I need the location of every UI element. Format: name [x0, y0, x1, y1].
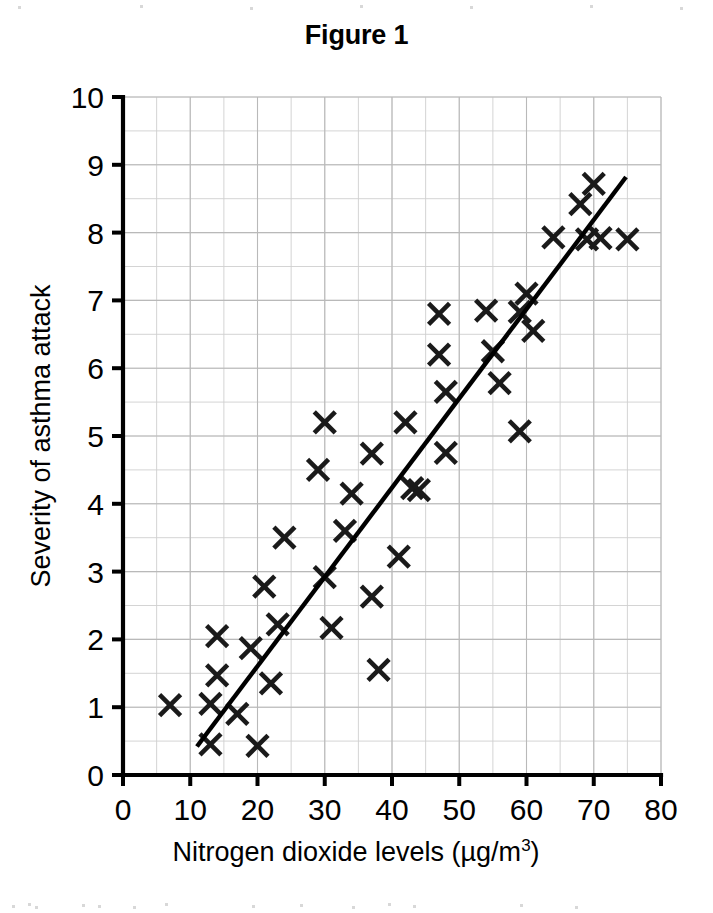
data-point — [429, 303, 450, 324]
x-axis-tick-label: 40 — [375, 793, 408, 826]
y-axis-tick-label: 1 — [87, 691, 104, 724]
data-point — [489, 373, 510, 394]
scan-speck — [35, 906, 38, 909]
x-axis-tick-label: 20 — [241, 793, 274, 826]
scan-speck — [470, 6, 473, 9]
data-point — [160, 695, 181, 716]
scan-speck — [12, 905, 15, 908]
data-point — [361, 443, 382, 464]
y-axis-tick-label: 2 — [87, 623, 104, 656]
y-axis-tick-label: 0 — [87, 759, 104, 792]
scatter-plot: 01234567891001020304050607080 Nitrogen d… — [0, 0, 713, 913]
scan-speck — [252, 905, 255, 908]
scan-speck — [82, 904, 85, 907]
scan-speck — [388, 903, 391, 906]
data-point — [368, 659, 389, 680]
x-axis-title: Nitrogen dioxide levels (µg/m3) — [172, 836, 539, 867]
data-point — [476, 300, 497, 321]
scan-speck — [352, 906, 355, 909]
x-axis-tick-label: 10 — [174, 793, 207, 826]
scan-speck — [590, 5, 593, 8]
x-axis-tick-label: 50 — [443, 793, 476, 826]
data-point — [509, 421, 530, 442]
scan-speck — [133, 906, 136, 909]
data-point — [570, 194, 591, 215]
data-point — [435, 442, 456, 463]
scan-speck — [28, 903, 31, 906]
x-axis-tick-label: 30 — [308, 793, 341, 826]
data-point — [523, 320, 544, 341]
trend-line — [197, 177, 626, 747]
scan-speck — [360, 5, 363, 8]
data-point — [321, 617, 342, 638]
data-point — [361, 586, 382, 607]
scan-speck — [575, 906, 578, 909]
y-axis-tick-label: 4 — [87, 488, 104, 521]
scan-speck — [165, 903, 168, 906]
x-axis-tick-label: 80 — [644, 793, 677, 826]
data-point — [341, 483, 362, 504]
y-axis-tick-label: 6 — [87, 352, 104, 385]
y-axis-tick-label: 9 — [87, 149, 104, 182]
scan-speck — [413, 905, 416, 908]
x-axis-tick-label: 0 — [115, 793, 132, 826]
data-point — [388, 546, 409, 567]
scan-speck — [250, 7, 253, 10]
data-point — [207, 626, 228, 647]
data-point — [207, 665, 228, 686]
scan-speck — [140, 5, 143, 8]
scan-speck — [680, 7, 683, 10]
line-of-best-fit — [197, 177, 626, 747]
scan-speck — [18, 6, 21, 9]
y-axis-tick-label: 7 — [87, 284, 104, 317]
scan-speck — [300, 904, 303, 907]
x-axis-tick-label: 70 — [577, 793, 610, 826]
data-point — [543, 227, 564, 248]
figure-container: Figure 1 01234567891001020304050607080 N… — [0, 0, 713, 913]
data-point — [395, 412, 416, 433]
data-point — [227, 703, 248, 724]
y-axis-title: Severity of asthma attack — [26, 284, 56, 588]
data-point — [260, 673, 281, 694]
y-axis-tick-label: 5 — [87, 420, 104, 453]
data-point — [590, 228, 611, 249]
y-axis-tick-label: 8 — [87, 217, 104, 250]
scan-speck — [520, 904, 523, 907]
data-point — [429, 344, 450, 365]
y-axis-tick-label: 3 — [87, 556, 104, 589]
data-point — [435, 381, 456, 402]
data-point — [200, 693, 221, 714]
y-axis-tick-label: 10 — [71, 81, 104, 114]
x-axis-tick-label: 60 — [510, 793, 543, 826]
data-points — [160, 173, 638, 756]
data-point — [240, 638, 261, 659]
scan-speck — [98, 905, 101, 908]
data-point — [254, 576, 275, 597]
